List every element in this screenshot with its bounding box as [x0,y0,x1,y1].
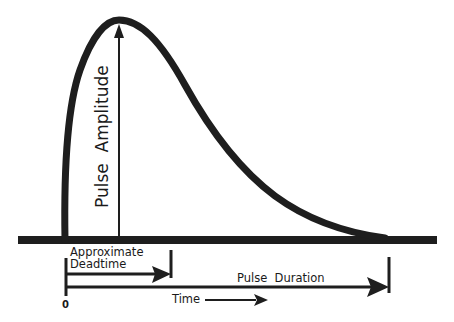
time-label: Time [171,292,200,306]
duration-label: Pulse Duration [237,271,325,285]
pulse-curve [65,20,385,240]
deadtime-label-line2: Deadtime [70,257,126,271]
pulse-diagram: Pulse Amplitude 0 Approximate Deadtime P… [0,0,454,322]
amplitude-arrow-head [114,24,124,38]
deadtime-arrow-head [152,266,171,283]
time-arrow-head [254,294,268,306]
pulse-diagram-svg: Pulse Amplitude 0 Approximate Deadtime P… [0,0,454,322]
amplitude-label: Pulse Amplitude [92,65,112,208]
origin-label: 0 [62,299,69,310]
